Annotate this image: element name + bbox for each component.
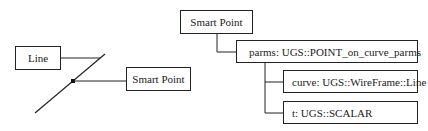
parms-label: parms: UGS::POINT_on_curve_parms [249, 46, 421, 58]
t-label: t: UGS::SCALAR [292, 107, 372, 119]
root-to-parms-connector [217, 34, 236, 52]
parms-to-t-connector [265, 63, 283, 113]
smart-point-box-left: Smart Point [126, 67, 191, 91]
smart-point-label: Smart Point [132, 73, 184, 85]
t-box: t: UGS::SCALAR [283, 101, 418, 124]
line-box: Line [15, 46, 61, 70]
tree-root-box: Smart Point [180, 10, 253, 34]
curve-label: curve: UGS::WireFrame::Line [292, 76, 426, 88]
parms-box: parms: UGS::POINT_on_curve_parms [236, 40, 418, 63]
line-label: Line [28, 52, 48, 64]
curve-box: curve: UGS::WireFrame::Line [283, 70, 418, 93]
tree-root-label: Smart Point [190, 16, 242, 28]
